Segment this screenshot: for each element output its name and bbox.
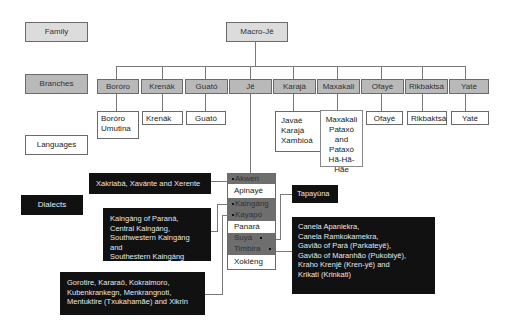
- languages-karaja: Javaé Karajá Xambioá: [275, 111, 322, 152]
- language-item: Pataxó: [324, 145, 359, 155]
- connector-line: [222, 215, 223, 295]
- language-item: Pataxó: [324, 125, 359, 135]
- language-label: Panará: [234, 222, 260, 231]
- language-item: Maxakali: [324, 115, 359, 125]
- language-label: Akwen: [235, 174, 259, 183]
- connector-line: [422, 66, 423, 79]
- language-item: Boróro: [101, 114, 135, 124]
- language-item: Ofayé: [370, 114, 399, 124]
- language-label: Apinayé: [234, 186, 263, 195]
- language-kayapo: Kayapó: [228, 210, 275, 221]
- dialects-akwen: Xakriabá, Xavánte and Xerente: [89, 173, 211, 194]
- connector-line: [162, 94, 163, 111]
- languages-maxakali: Maxakali Pataxó and Pataxó Hã-Hã-Hãe: [320, 110, 363, 167]
- languages-rikbaktsa: Rikbaktsá: [407, 111, 447, 125]
- legend-languages-label: Languages: [37, 140, 77, 150]
- connector-line: [205, 94, 206, 111]
- connector-line: [293, 94, 294, 111]
- language-item: Umutina: [101, 124, 135, 134]
- je-connector-line: [250, 94, 251, 173]
- branch-karaja: Karajá: [273, 79, 316, 94]
- trunk-line: [255, 42, 256, 66]
- legend-languages: Languages: [25, 135, 88, 155]
- branch-guato: Guató: [185, 79, 228, 94]
- legend-branches: Branches: [25, 74, 88, 94]
- dialect-item: Gavião of Pará (Parkateyê),: [298, 241, 429, 251]
- languages-ofaye: Ofayé: [366, 111, 403, 125]
- branch-bus-line: [116, 66, 466, 67]
- connector-line: [116, 94, 117, 111]
- branch-label: Maxakali: [323, 82, 355, 92]
- branch-ofaye: Ofayé: [361, 79, 404, 94]
- branch-label: Boróro: [106, 82, 130, 92]
- connector-line: [205, 66, 206, 79]
- language-item: and: [324, 135, 359, 145]
- language-kaingang: Kaingáng: [228, 198, 275, 210]
- dialect-item: Kaingáng of Paraná,: [110, 214, 204, 224]
- connector-line: [217, 204, 228, 205]
- branch-label: Yaté: [461, 82, 477, 92]
- language-xokleng: Xokléng: [228, 255, 275, 269]
- connector-line: [217, 204, 218, 232]
- dialect-item: Krikati (Krinkati): [298, 270, 429, 280]
- dialects-timbira: Canela Apaniekra, Canela Ramkokamekra, G…: [292, 217, 435, 294]
- language-akwen: Akwen: [228, 174, 275, 184]
- language-item: Hã-Hã-Hãe: [324, 155, 359, 175]
- dialect-item: Southwestern Kaingáng and: [110, 233, 204, 252]
- legend-dialects-label: Dialects: [38, 200, 66, 210]
- language-item: Krenák: [146, 114, 179, 124]
- branch-je: Jê: [229, 79, 272, 94]
- connector-line: [222, 215, 228, 216]
- languages-yate: Yaté: [451, 111, 489, 125]
- branch-maxakali: Maxakali: [317, 79, 360, 94]
- legend-family: Family: [25, 22, 88, 42]
- language-item: Javaé: [281, 116, 318, 126]
- dialects-suya: Tapayúna: [292, 185, 338, 203]
- connector-line: [381, 94, 382, 111]
- languages-je: Akwen Apinayé Kaingáng Kayapó Panará Suy…: [227, 173, 276, 270]
- bullet-icon: [269, 248, 271, 250]
- branch-bororo: Boróro: [97, 79, 139, 94]
- dialect-item: Mentuktire (Txukahamãe) and Xikrin: [67, 297, 198, 307]
- connector-line: [465, 94, 466, 111]
- language-label: Timbira: [234, 244, 260, 253]
- languages-bororo: Boróro Umutina: [97, 111, 139, 139]
- branch-rikbaktsa: Rikbaktsá: [405, 79, 448, 94]
- dialects-kaingang: Kaingáng of Paraná, Central Kaingáng, So…: [103, 208, 211, 261]
- language-panara: Panará: [228, 221, 275, 233]
- branch-label: Rikbaktsá: [409, 82, 444, 92]
- connector-line: [162, 66, 163, 79]
- bullet-icon: [232, 214, 234, 216]
- connector-line: [280, 194, 292, 195]
- dialect-item: Gavião of Maranhão (Pukobiyê),: [298, 251, 429, 261]
- language-label: Kaingáng: [235, 199, 269, 208]
- connector-line: [337, 94, 338, 110]
- language-timbira: Timbira: [228, 244, 275, 255]
- connector-line: [211, 181, 228, 182]
- branch-label: Jê: [246, 82, 254, 92]
- legend-dialects: Dialects: [21, 195, 83, 215]
- connector-line: [422, 94, 423, 111]
- connector-line: [465, 66, 466, 79]
- connector-line: [276, 251, 292, 252]
- dialect-text: Tapayúna: [297, 189, 330, 198]
- language-label: Kayapó: [235, 210, 262, 219]
- connector-line: [381, 66, 382, 79]
- branch-yate: Yaté: [449, 79, 489, 94]
- legend-branches-label: Branches: [40, 79, 74, 89]
- languages-guato: Guató: [186, 111, 226, 125]
- bullet-icon: [232, 203, 234, 205]
- language-item: Rikbaktsá: [411, 114, 443, 124]
- connector-line: [337, 66, 338, 79]
- branch-label: Guató: [196, 82, 218, 92]
- dialect-item: Kubenkrankegn, Menkrangnoti,: [67, 288, 198, 298]
- branch-label: Krenák: [149, 82, 174, 92]
- connector-line: [205, 294, 222, 295]
- language-label: Xokléng: [234, 257, 263, 266]
- connector-line: [280, 194, 281, 240]
- dialect-item: Kraho Krenjê (Kren-yê) and: [298, 260, 429, 270]
- family-node-label: Macro-Jê: [240, 27, 273, 37]
- bullet-icon: [260, 237, 262, 239]
- family-node-macro-je: Macro-Jê: [226, 22, 288, 42]
- language-item: Karajá: [281, 126, 318, 136]
